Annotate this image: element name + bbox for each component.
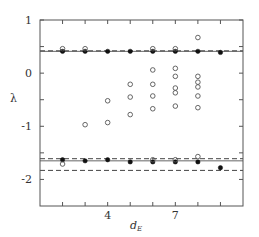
open-data-point bbox=[196, 154, 201, 159]
lyapunov-exponent-chart: 47 10-1-2 dE λ bbox=[0, 0, 259, 237]
x-tick-label: 7 bbox=[172, 209, 179, 222]
y-tick-label: 0 bbox=[25, 67, 32, 80]
open-data-point bbox=[173, 104, 178, 109]
open-data-point bbox=[196, 74, 201, 79]
open-data-point bbox=[128, 112, 133, 117]
open-data-point bbox=[173, 86, 178, 91]
open-data-point bbox=[150, 82, 155, 87]
y-axis-label: λ bbox=[10, 92, 17, 105]
open-data-point bbox=[173, 91, 178, 96]
open-data-point bbox=[196, 35, 201, 40]
open-data-point bbox=[196, 105, 201, 110]
filled-data-point bbox=[128, 160, 132, 164]
filled-data-point bbox=[196, 160, 200, 164]
x-axis-label: dE bbox=[130, 219, 142, 233]
data-points bbox=[60, 35, 222, 170]
open-data-point bbox=[60, 162, 65, 167]
filled-data-point bbox=[83, 159, 87, 163]
open-data-point bbox=[173, 74, 178, 79]
plot-frame bbox=[40, 20, 243, 206]
filled-data-point bbox=[218, 166, 222, 170]
open-data-point bbox=[105, 98, 110, 103]
open-data-point bbox=[128, 95, 133, 100]
open-data-point bbox=[128, 82, 133, 87]
y-tick-label: 1 bbox=[25, 14, 32, 27]
y-tick-label: -1 bbox=[21, 120, 32, 133]
open-data-point bbox=[196, 85, 201, 90]
y-tick-label: -2 bbox=[21, 173, 32, 186]
filled-data-point bbox=[218, 50, 222, 54]
x-axis-label-subscript: E bbox=[136, 225, 142, 233]
open-data-point bbox=[196, 94, 201, 99]
x-tick-label: 4 bbox=[104, 209, 111, 222]
open-data-point bbox=[150, 68, 155, 73]
filled-data-point bbox=[128, 49, 132, 53]
filled-data-point bbox=[196, 49, 200, 53]
open-data-point bbox=[150, 106, 155, 111]
open-data-point bbox=[105, 120, 110, 125]
filled-data-point bbox=[105, 158, 109, 162]
open-data-point bbox=[83, 122, 88, 127]
open-data-point bbox=[150, 94, 155, 99]
reference-lines bbox=[40, 51, 243, 171]
open-data-point bbox=[173, 66, 178, 71]
filled-data-point bbox=[105, 49, 109, 53]
open-data-point bbox=[196, 80, 201, 85]
